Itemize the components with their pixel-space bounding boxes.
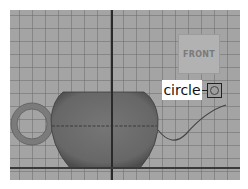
y-axis-line [111, 10, 113, 180]
circle-label-text: circle [163, 83, 200, 97]
circle-node-icon[interactable] [207, 83, 222, 98]
view-cube-front[interactable]: FRONT [178, 34, 220, 74]
view-cube-label: FRONT [183, 50, 215, 59]
spout-curve[interactable] [158, 105, 226, 140]
x-axis-line [10, 167, 240, 169]
pot-body[interactable] [51, 92, 158, 168]
circle-label: circle [162, 80, 202, 100]
3d-viewport[interactable]: FRONT circle [10, 10, 240, 180]
handle-torus[interactable] [14, 106, 50, 142]
